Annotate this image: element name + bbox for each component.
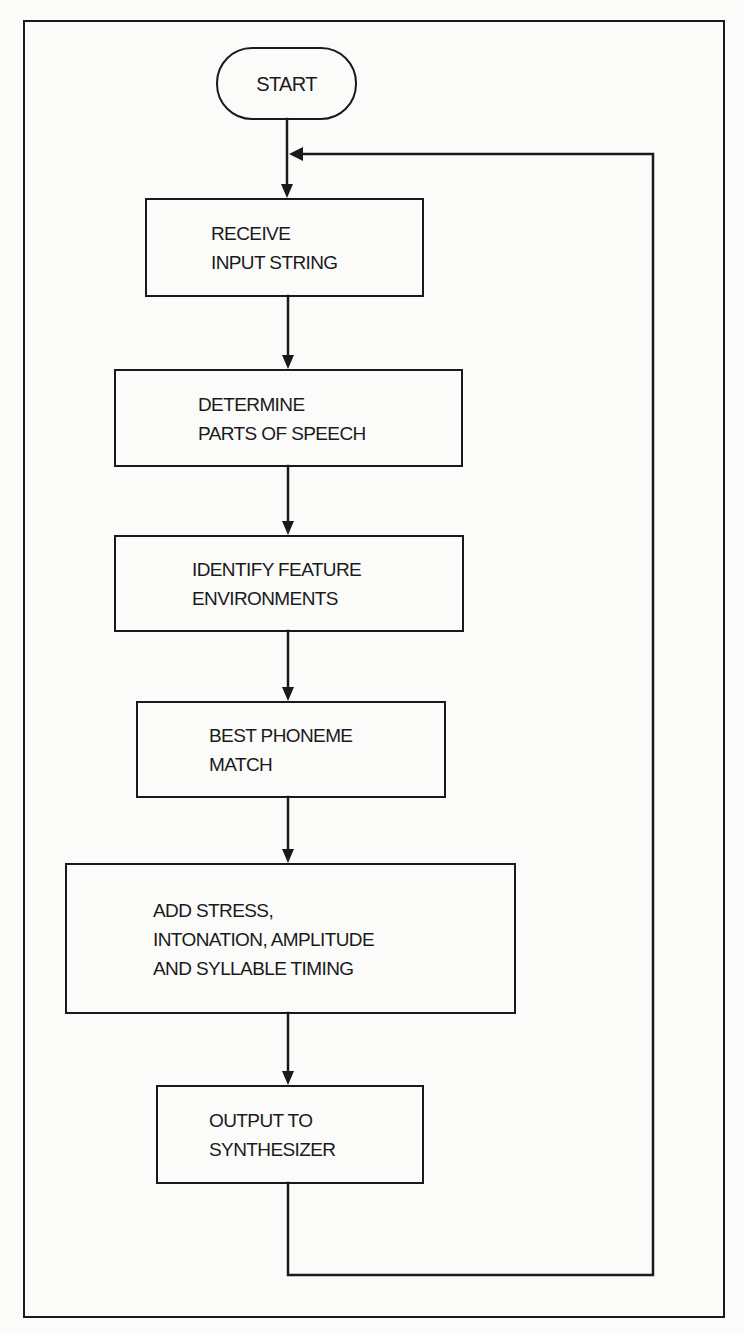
arrowhead-down-icon [282, 849, 294, 863]
step-label: DETERMINE PARTS OF SPEECH [198, 390, 366, 448]
arrowhead-down-icon [282, 521, 294, 535]
start-label: START [218, 69, 355, 98]
arrowhead-down-icon [281, 184, 293, 198]
step-output-to-synthesizer: OUTPUT TO SYNTHESIZER [156, 1085, 424, 1184]
step-receive-input-string: RECEIVE INPUT STRING [145, 198, 424, 297]
arrowhead-down-icon [282, 687, 294, 701]
step-label: ADD STRESS, INTONATION, AMPLITUDE AND SY… [153, 896, 374, 983]
arrowhead-down-icon [282, 1071, 294, 1085]
step-best-phoneme-match: BEST PHONEME MATCH [136, 701, 446, 798]
arrowhead-down-icon [282, 355, 294, 369]
step-label: BEST PHONEME MATCH [209, 721, 352, 779]
flowchart-canvas: START RECEIVE INPUT STRING DETERMINE PAR… [0, 0, 744, 1333]
step-label: RECEIVE INPUT STRING [211, 219, 338, 277]
arrowhead-left-icon [289, 147, 303, 161]
step-label: IDENTIFY FEATURE ENVIRONMENTS [192, 555, 361, 613]
step-identify-feature-environments: IDENTIFY FEATURE ENVIRONMENTS [114, 535, 464, 632]
step-label: OUTPUT TO SYNTHESIZER [209, 1106, 335, 1164]
step-determine-parts-of-speech: DETERMINE PARTS OF SPEECH [114, 369, 463, 467]
step-add-stress-intonation-amplitude: ADD STRESS, INTONATION, AMPLITUDE AND SY… [65, 863, 516, 1014]
start-terminal: START [216, 47, 357, 120]
